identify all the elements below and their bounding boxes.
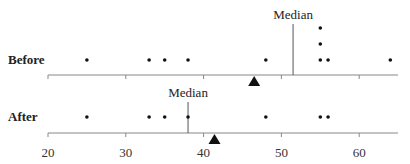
data-point (326, 115, 330, 119)
data-point (264, 115, 268, 119)
data-point (319, 58, 323, 62)
dot-plot-chart: BeforeMedianAfterMedian 2030405060 (0, 0, 410, 164)
data-point (319, 26, 323, 30)
row-after: AfterMedian (8, 85, 398, 144)
x-tick-label: 30 (119, 145, 132, 160)
median-label: Median (168, 85, 208, 100)
data-point (319, 115, 323, 119)
row-label: After (8, 109, 38, 124)
row-label: Before (8, 52, 45, 67)
data-point (389, 58, 393, 62)
x-tick-label: 40 (197, 145, 210, 160)
x-tick-label: 50 (275, 145, 288, 160)
mean-triangle-icon (208, 134, 220, 144)
data-point (163, 58, 167, 62)
data-point (147, 115, 151, 119)
data-point (147, 58, 151, 62)
data-point (326, 58, 330, 62)
data-point (85, 115, 89, 119)
rows: BeforeMedianAfterMedian (8, 7, 398, 144)
data-point (264, 58, 268, 62)
data-point (85, 58, 89, 62)
median-label: Median (273, 7, 313, 22)
data-point (186, 58, 190, 62)
data-point (163, 115, 167, 119)
data-point (186, 115, 190, 119)
x-tick-label: 20 (42, 145, 55, 160)
row-before: BeforeMedian (8, 7, 398, 86)
mean-triangle-icon (248, 76, 260, 86)
data-point (319, 42, 323, 46)
x-axis-tick-labels: 2030405060 (42, 145, 366, 160)
x-tick-label: 60 (353, 145, 366, 160)
